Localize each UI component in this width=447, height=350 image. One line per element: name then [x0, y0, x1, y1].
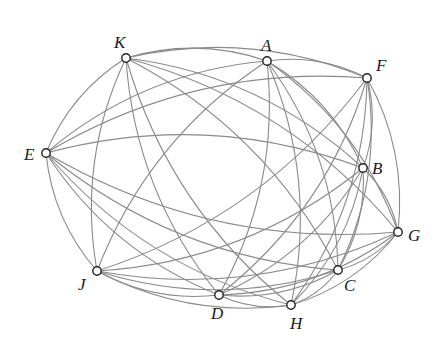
edge-E-D	[46, 153, 219, 295]
graph-diagram: KAFEBGJDHC	[0, 0, 447, 350]
node-H	[287, 301, 295, 309]
node-G	[394, 228, 402, 236]
edge-K-A	[126, 48, 267, 61]
node-B	[359, 164, 367, 172]
edge-A-C	[267, 61, 338, 270]
node-label-E: E	[23, 145, 35, 164]
node-label-G: G	[408, 226, 420, 245]
edge-F-E	[46, 76, 367, 153]
edge-J-D	[97, 271, 219, 296]
node-label-C: C	[344, 276, 356, 295]
node-J	[93, 267, 101, 275]
node-label-B: B	[372, 159, 383, 178]
edge-E-C	[46, 153, 338, 270]
node-label-J: J	[78, 275, 87, 294]
node-A	[263, 57, 271, 65]
node-label-D: D	[210, 304, 224, 323]
graph-svg: KAFEBGJDHC	[0, 0, 447, 350]
node-F	[363, 74, 371, 82]
edge-E-G	[46, 153, 398, 235]
edge-F-D	[219, 78, 367, 295]
node-label-K: K	[113, 33, 127, 52]
edge-K-G	[126, 58, 398, 232]
edge-B-D	[219, 168, 363, 295]
edge-A-G	[267, 61, 398, 232]
edge-A-D	[219, 61, 269, 295]
node-E	[42, 149, 50, 157]
nodes-group	[42, 54, 402, 309]
node-label-A: A	[260, 36, 272, 55]
edge-K-J	[91, 58, 126, 271]
node-D	[215, 291, 223, 299]
edge-F-J	[97, 78, 367, 271]
edge-A-H	[267, 61, 300, 305]
edge-E-J	[46, 153, 97, 271]
node-label-H: H	[289, 314, 304, 333]
node-K	[122, 54, 130, 62]
node-label-F: F	[375, 56, 387, 75]
edge-D-C	[219, 270, 338, 296]
edge-A-F	[267, 59, 367, 78]
edge-B-J	[97, 168, 363, 271]
node-C	[334, 266, 342, 274]
